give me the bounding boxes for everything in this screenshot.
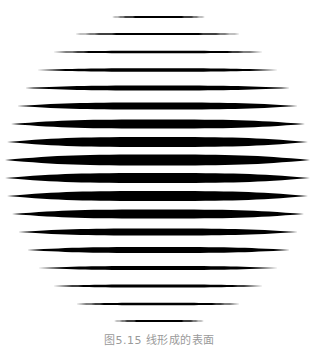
tapered-line-3	[53, 51, 263, 54]
tapered-line-15	[38, 266, 278, 270]
tapered-line-4	[37, 68, 278, 72]
tapered-line-7	[11, 120, 305, 129]
tapered-line-18	[114, 320, 204, 322]
tapered-line-6	[17, 103, 298, 110]
tapered-line-1	[112, 16, 205, 18]
tapered-line-9	[5, 155, 310, 166]
tapered-line-5	[25, 86, 290, 91]
figure-caption: 图5.15 线形成的表面	[0, 331, 319, 347]
tapered-line-17	[76, 303, 240, 306]
tapered-line-11	[7, 191, 308, 201]
tapered-line-16	[53, 285, 263, 288]
tapered-line-13	[18, 229, 298, 236]
tapered-line-2	[75, 33, 240, 35]
tapered-line-8	[7, 137, 308, 147]
tapered-line-10	[5, 173, 310, 183]
tapered-line-12	[12, 210, 304, 219]
tapered-line-14	[27, 247, 290, 253]
